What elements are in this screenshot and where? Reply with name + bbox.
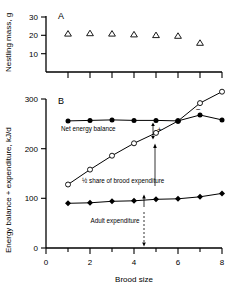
data-point <box>109 31 116 36</box>
data-point <box>175 33 182 39</box>
panel-b-xtick-0: 0 <box>44 258 49 267</box>
data-point <box>197 194 203 200</box>
figure-container: Nestling mass, g A 30 20 10 <box>0 0 230 296</box>
panel-b-letter: B <box>58 96 64 106</box>
panel-a-ytick-30: 30 <box>29 13 38 22</box>
data-point <box>131 198 137 204</box>
panel-b-ytick-0: 0 <box>34 244 39 253</box>
panel-b-ytick-300: 300 <box>25 95 39 104</box>
data-point <box>176 118 181 123</box>
data-point <box>66 182 71 187</box>
data-point <box>153 196 159 202</box>
panel-b-xtick-2: 2 <box>88 258 93 267</box>
data-point <box>132 141 137 146</box>
data-point <box>65 200 71 206</box>
panel-a-letter: A <box>58 11 64 21</box>
data-point <box>220 117 225 122</box>
data-point <box>66 118 71 123</box>
annotation-adult-expenditure: Adult expenditure <box>90 217 140 225</box>
annotation-plus-sign: + <box>157 125 162 134</box>
panel-b-xtick-8: 8 <box>220 258 225 267</box>
panel-a-ytick-20: 20 <box>29 31 38 40</box>
annotation-brood-share: ½ share of brood expenditure <box>82 177 165 185</box>
data-point <box>175 196 181 202</box>
adult-expenditure-arrow <box>142 195 146 247</box>
panel-b-xtick-6: 6 <box>176 258 181 267</box>
panel-b-xtick-4: 4 <box>132 258 137 267</box>
panel-b-ylabel: Energy balance + expenditure, kJ/d <box>4 127 13 253</box>
data-point <box>109 198 115 204</box>
annotation-net-energy-balance: Net energy balance <box>61 125 116 133</box>
data-point <box>110 117 115 122</box>
panel-a-ytick-10: 10 <box>29 50 38 59</box>
data-point <box>197 40 204 46</box>
data-point <box>65 31 72 36</box>
panel-a-ylabel: Nestling mass, g <box>4 13 13 72</box>
panel-b-ytick-100: 100 <box>25 194 39 203</box>
data-point <box>154 118 159 123</box>
data-point <box>88 167 93 172</box>
data-point <box>131 31 138 37</box>
data-point <box>132 118 137 123</box>
data-point <box>87 30 94 36</box>
panel-a-y-ticks <box>41 17 46 54</box>
data-point <box>88 118 93 123</box>
panel-a-x-ticks <box>68 72 222 78</box>
annotation-minus-sign: − <box>196 105 201 114</box>
panel-b-x-ticks <box>46 248 222 254</box>
data-point <box>153 32 160 38</box>
figure-svg: Nestling mass, g A 30 20 10 <box>0 0 230 296</box>
data-point <box>219 190 225 196</box>
panel-a: Nestling mass, g A 30 20 10 <box>4 11 222 78</box>
panel-b-xlabel: Brood size <box>115 275 153 284</box>
series-net-energy-balance-markers <box>66 113 225 124</box>
panel-b: Energy balance + expenditure, kJ/d B 0 1… <box>4 89 225 284</box>
data-point <box>87 200 93 206</box>
panel-b-ytick-200: 200 <box>25 145 39 154</box>
data-point <box>110 153 115 158</box>
data-point <box>220 89 225 94</box>
panel-b-y-ticks <box>41 99 46 248</box>
panel-a-series-nestling-mass <box>65 30 204 45</box>
